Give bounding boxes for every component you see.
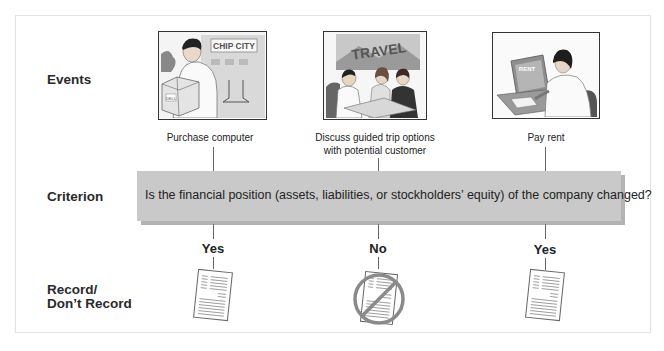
travel-agent-meeting-illustration: TRAVEL xyxy=(324,32,425,118)
connector-line xyxy=(545,224,546,239)
event-caption-2-line2: with potential customer xyxy=(275,144,475,157)
no-record-prohibited-document-icon xyxy=(350,268,408,328)
person-paying-rent-online-illustration: RENT xyxy=(493,33,598,117)
connector-line xyxy=(213,147,214,171)
record-document-icon xyxy=(522,268,568,322)
record-document-icon xyxy=(190,268,236,322)
connector-line xyxy=(378,224,379,239)
answer-yes-1: Yes xyxy=(183,241,243,256)
event-caption-3: Pay rent xyxy=(446,131,646,144)
criterion-box: Is the financial position (assets, liabi… xyxy=(137,171,621,221)
row-label-record-line1: Record/ xyxy=(47,283,97,297)
svg-text:DELL: DELL xyxy=(166,96,177,101)
row-label-criterion: Criterion xyxy=(47,190,103,204)
answer-no: No xyxy=(348,241,408,256)
connector-line xyxy=(213,224,214,239)
row-label-record-line2: Don’t Record xyxy=(47,297,132,311)
event-image-discuss-trip: TRAVEL xyxy=(323,31,427,120)
answer-yes-2: Yes xyxy=(515,242,575,257)
event-caption-2-line1: Discuss guided trip options xyxy=(275,131,475,144)
criterion-question: Is the financial position (assets, liabi… xyxy=(145,188,652,202)
man-carrying-computer-box-illustration: CHIP CITY DELL xyxy=(159,32,265,118)
event-image-pay-rent: RENT xyxy=(492,32,600,119)
event-image-purchase-computer: CHIP CITY DELL xyxy=(158,31,267,120)
svg-text:CHIP CITY: CHIP CITY xyxy=(213,41,255,51)
svg-text:RENT: RENT xyxy=(519,66,536,72)
row-label-events: Events xyxy=(47,73,91,87)
connector-line xyxy=(545,147,546,171)
connector-line xyxy=(378,158,379,171)
